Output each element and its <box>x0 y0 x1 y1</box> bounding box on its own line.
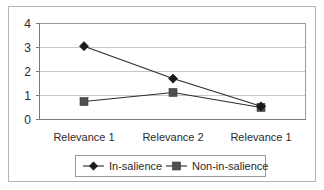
x-category-label-0: Relevance 1 <box>53 131 114 143</box>
y-tick-label-0: 0 <box>24 113 31 127</box>
markers-non-in-salience <box>80 89 265 112</box>
y-tick-label-3: 3 <box>24 41 31 55</box>
legend-label-in-salience: In-salience <box>109 160 162 172</box>
gridlines <box>39 23 306 95</box>
legend-label-non-in-salience: Non-in-salience <box>192 160 268 172</box>
x-category-label-1: Relevance 2 <box>142 131 203 143</box>
y-tick-label-2: 2 <box>24 65 31 79</box>
y-tick-label-1: 1 <box>24 89 31 103</box>
y-axis-ticks <box>36 24 40 120</box>
y-tick-label-4: 4 <box>24 17 31 31</box>
chart-legend: In-salience Non-in-salience <box>76 156 269 177</box>
x-category-label-2: Relevance 1 <box>230 131 291 143</box>
markers-in-salience <box>79 42 265 111</box>
chart-container: 4 3 2 1 0 Relevance 1 Relevance 2 Releva… <box>8 6 316 182</box>
line-chart: 4 3 2 1 0 Relevance 1 Relevance 2 Releva… <box>9 7 315 181</box>
